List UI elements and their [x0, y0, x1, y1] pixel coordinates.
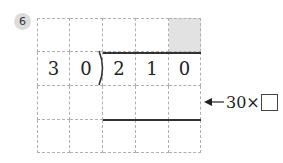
problem-number-badge: 6: [14, 13, 31, 30]
divisor-digit-tens: 3: [37, 52, 70, 86]
grid-cell-r1c2[interactable]: [70, 18, 103, 52]
grid-cell-r1c4[interactable]: [136, 18, 169, 52]
grid-cell-r4c2[interactable]: [70, 120, 103, 153]
left-arrow-icon: [203, 96, 225, 108]
division-bracket-icon: [96, 50, 106, 86]
grid-cell-r3c5[interactable]: [169, 86, 201, 120]
grid-cell-r3c2[interactable]: [70, 86, 103, 120]
subtraction-line: [103, 119, 201, 121]
grid-cell-r4c1[interactable]: [37, 120, 70, 153]
dividend-digit-ones: 0: [169, 52, 201, 86]
multiplier-answer-box[interactable]: [261, 94, 278, 111]
grid-cell-r4c4[interactable]: [136, 120, 169, 153]
long-division-grid: 3 0 2 1 0: [37, 18, 201, 153]
grid-cell-r3c4[interactable]: [136, 86, 169, 120]
dividend-digit-tens: 1: [136, 52, 169, 86]
multiplication-label: 30×: [226, 93, 260, 112]
grid-cell-r3c1[interactable]: [37, 86, 70, 120]
grid-cell-r4c5[interactable]: [169, 120, 201, 153]
grid-cell-r1c1[interactable]: [37, 18, 70, 52]
grid-cell-r1c3[interactable]: [103, 18, 136, 52]
grid-cell-r4c3[interactable]: [103, 120, 136, 153]
multiplication-annotation: 30×: [203, 90, 278, 114]
grid-cell-r3c3[interactable]: [103, 86, 136, 120]
dividend-digit-hundreds: 2: [103, 52, 136, 86]
division-vinculum-line: [103, 52, 201, 54]
quotient-answer-cell[interactable]: [169, 18, 201, 52]
